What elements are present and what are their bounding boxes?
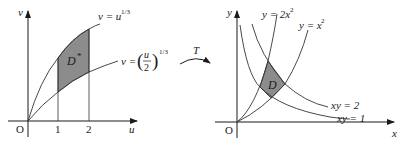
label-xy-2: xy = 2 — [330, 99, 360, 111]
tick-2: 2 — [86, 123, 92, 135]
region-d-star-superscript: * — [77, 51, 82, 61]
x-axis-label: x — [391, 127, 397, 139]
curve-xy-2 — [252, 24, 328, 107]
label-xy-1: xy = 1 — [336, 112, 365, 124]
left-panel: v u O 1 2 D * v = u 1/3 v = ( u 2 ) 1/3 — [8, 6, 168, 137]
lower-curve-paren-open: ( — [137, 50, 143, 72]
diagram-canvas: v u O 1 2 D * v = u 1/3 v = ( u 2 ) 1/3 … — [0, 0, 403, 143]
tick-1: 1 — [55, 123, 61, 135]
lower-curve-frac-num: u — [144, 49, 149, 60]
region-d-star-label: D — [66, 54, 76, 68]
label-y-2x2: y = 2x — [261, 8, 290, 20]
u-axis-label: u — [129, 123, 135, 135]
label-y-x2-exp: 2 — [321, 17, 325, 25]
lower-curve-exponent: 1/3 — [159, 48, 168, 56]
y-axis-label: y — [226, 6, 232, 18]
lower-curve-paren-close: ) — [152, 50, 158, 72]
origin-label: O — [16, 123, 24, 135]
transform-label: T — [193, 44, 200, 56]
upper-curve-exponent: 1/3 — [121, 8, 130, 16]
lower-curve-label-lhs: v = — [121, 55, 136, 67]
right-panel: y x O D y = 2x 2 y = x 2 xy = 2 xy = 1 — [215, 6, 397, 139]
label-y-2x2-exp: 2 — [290, 6, 294, 14]
transform-arrow-group: T — [180, 44, 210, 64]
label-y-x2: y = x — [298, 19, 322, 31]
v-axis-label: v — [18, 6, 23, 18]
region-d-label: D — [267, 78, 277, 92]
right-origin-label: O — [225, 124, 233, 136]
transform-arrow — [180, 59, 210, 64]
lower-curve-frac-den: 2 — [144, 62, 149, 73]
upper-curve-label: v = u — [98, 10, 122, 22]
